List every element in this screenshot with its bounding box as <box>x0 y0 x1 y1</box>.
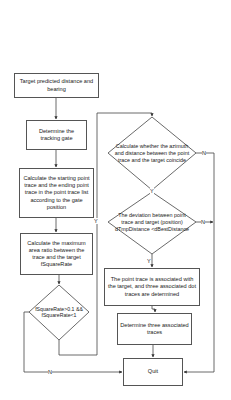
associated-label: The point trace is associated with the t… <box>107 276 197 298</box>
deviation-decision-label: The deviation between point trace and ta… <box>114 212 190 233</box>
quit-node: Quit <box>123 358 183 386</box>
calculate-ratio-label: Calculate the maximum area ratio between… <box>23 240 90 269</box>
coincide-decision-node: Calculate whether the azimuth and distan… <box>112 130 192 176</box>
deviation-decision-node: The deviation between point trace and ta… <box>114 200 190 244</box>
determine-three-node: Determine three associated traces <box>117 313 192 345</box>
ratio-no-label: N <box>48 369 52 375</box>
calculate-trace-node: Calculate the starting point trace and t… <box>19 168 94 218</box>
tracking-gate-node: Determine the tracking gate <box>26 120 87 150</box>
deviation-no-label: N <box>201 219 205 225</box>
associated-node: The point trace is associated with the t… <box>104 268 200 306</box>
start-node-label: Target predicted distance and bearing <box>17 78 96 92</box>
coincide-no-label: N <box>202 150 206 156</box>
determine-three-label: Determine three associated traces <box>120 322 189 336</box>
calculate-ratio-node: Calculate the maximum area ratio between… <box>20 233 93 275</box>
coincide-yes-label: Y <box>150 188 154 194</box>
ratio-decision-node: fSquareRate>0.1 && fSquareRate<1 <box>33 300 85 324</box>
coincide-decision-label: Calculate whether the azimuth and distan… <box>112 143 192 164</box>
calculate-trace-label: Calculate the starting point trace and t… <box>22 175 91 211</box>
tracking-gate-label: Determine the tracking gate <box>29 128 84 142</box>
start-node: Target predicted distance and bearing <box>14 73 99 98</box>
ratio-decision-label: fSquareRate>0.1 && fSquareRate<1 <box>33 306 85 319</box>
quit-label: Quit <box>148 368 158 375</box>
deviation-yes-label: Y <box>147 258 151 264</box>
ratio-yes-label: Y <box>94 218 98 224</box>
